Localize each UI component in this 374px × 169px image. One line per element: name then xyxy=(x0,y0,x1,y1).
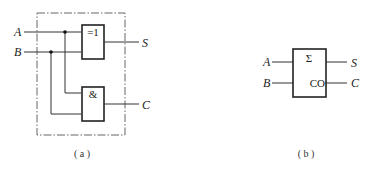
and-gate-label: & xyxy=(89,88,98,100)
half-adder-diagram: =1 & A B S C ( a ) Σ CO A B S C ( b ) xyxy=(0,0,374,169)
output-label-s: S xyxy=(351,56,357,70)
wire-a-branch xyxy=(65,32,81,93)
dashed-boundary xyxy=(37,13,125,135)
carry-out-label: CO xyxy=(310,77,325,89)
output-label-s: S xyxy=(142,36,148,50)
input-label-b: B xyxy=(14,45,22,59)
junction-dot-b xyxy=(49,50,53,54)
xor-gate-label: =1 xyxy=(87,26,99,38)
sum-symbol: Σ xyxy=(306,52,312,64)
figure-a: =1 & A B S C ( a ) xyxy=(13,13,151,160)
input-label-a: A xyxy=(262,55,271,69)
caption-b: ( b ) xyxy=(298,148,315,160)
output-label-c: C xyxy=(351,76,360,90)
figure-b: Σ CO A B S C ( b ) xyxy=(262,49,360,160)
input-label-b: B xyxy=(263,76,271,90)
wire-b-branch xyxy=(51,52,81,114)
output-label-c: C xyxy=(142,98,151,112)
caption-a: ( a ) xyxy=(74,148,90,160)
junction-dot-a xyxy=(63,30,67,34)
input-label-a: A xyxy=(13,25,22,39)
